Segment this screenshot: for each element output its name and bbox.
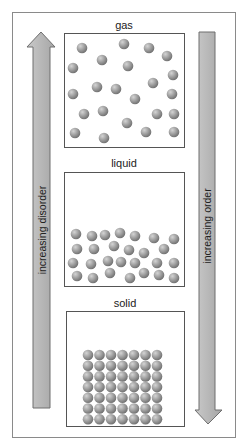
gas-particle — [92, 82, 103, 93]
solid-particle — [140, 403, 151, 414]
solid-particle — [152, 350, 163, 361]
gas-particle — [98, 106, 109, 117]
solid-particle — [140, 382, 151, 393]
liquid-particle — [72, 244, 83, 255]
liquid-label: liquid — [84, 157, 164, 169]
gas-particle — [99, 133, 110, 144]
liquid-particle — [152, 258, 163, 269]
liquid-particle — [130, 258, 141, 269]
solid-particle — [140, 393, 151, 404]
solid-particle — [106, 350, 117, 361]
solid-particle — [94, 393, 105, 404]
solid-particle — [117, 371, 128, 382]
liquid-particle — [139, 248, 150, 259]
gas-particle — [141, 127, 152, 138]
solid-particle — [140, 360, 151, 371]
solid-particle — [129, 382, 140, 393]
increasing-order-label: increasing order — [201, 188, 213, 263]
increasing-disorder-label: increasing disorder — [36, 186, 48, 275]
solid-particle — [83, 382, 94, 393]
liquid-particle — [105, 268, 116, 279]
liquid-particle — [154, 270, 165, 281]
liquid-particle — [109, 241, 120, 252]
liquid-particle — [169, 234, 180, 245]
liquid-particle — [169, 258, 180, 269]
liquid-particle — [149, 233, 160, 244]
liquid-container — [65, 173, 185, 287]
liquid-particle — [159, 244, 170, 255]
solid-particle — [140, 371, 151, 382]
states-of-matter-diagram: gas liquid solid increasing disorder inc… — [0, 0, 237, 444]
solid-particle — [94, 414, 105, 425]
liquid-particle — [103, 256, 114, 267]
solid-particle — [152, 393, 163, 404]
gas-particle — [168, 70, 179, 81]
liquid-particle — [139, 268, 150, 279]
solid-particle — [152, 360, 163, 371]
solid-particle — [83, 371, 94, 382]
solid-particle — [152, 371, 163, 382]
liquid-particle — [100, 230, 111, 241]
solid-particle — [106, 403, 117, 414]
solid-particle — [129, 393, 140, 404]
gas-particle — [79, 109, 90, 120]
gas-particle — [162, 51, 173, 62]
gas-label: gas — [84, 19, 164, 31]
solid-label: solid — [85, 297, 165, 309]
gas-container — [65, 34, 185, 148]
solid-particle — [140, 414, 151, 425]
gas-particle — [68, 63, 79, 74]
gas-particle — [97, 55, 108, 66]
liquid-particle — [68, 258, 79, 269]
liquid-particle — [125, 273, 136, 284]
liquid-particle — [169, 273, 180, 284]
solid-particle — [94, 371, 105, 382]
solid-particle — [117, 382, 128, 393]
gas-particle — [169, 127, 180, 138]
gas-particle — [68, 89, 79, 100]
solid-particle — [106, 414, 117, 425]
gas-particle — [169, 109, 180, 120]
liquid-particle — [86, 259, 97, 270]
liquid-particle — [130, 231, 141, 242]
gas-particle — [152, 109, 163, 120]
gas-particle — [123, 61, 134, 72]
gas-particle — [122, 118, 133, 129]
solid-particle — [129, 350, 140, 361]
gas-particle — [70, 128, 81, 139]
liquid-particle — [89, 244, 100, 255]
solid-particle — [83, 350, 94, 361]
liquid-particle — [87, 231, 98, 242]
liquid-particle — [88, 273, 99, 284]
solid-particle — [140, 350, 151, 361]
gas-particle — [130, 94, 141, 105]
solid-particle — [83, 360, 94, 371]
solid-particle — [83, 403, 94, 414]
solid-particle — [94, 382, 105, 393]
solid-particle — [129, 371, 140, 382]
solid-particle — [117, 360, 128, 371]
solid-particle — [106, 393, 117, 404]
solid-particle — [117, 350, 128, 361]
solid-particle — [106, 382, 117, 393]
solid-particle — [117, 414, 128, 425]
gas-particle — [167, 89, 178, 100]
liquid-particle — [115, 228, 126, 239]
solid-particle — [83, 393, 94, 404]
solid-particle — [117, 403, 128, 414]
solid-particle — [117, 393, 128, 404]
liquid-box — [65, 173, 185, 287]
solid-particle — [106, 360, 117, 371]
solid-particle — [129, 414, 140, 425]
gas-particle — [119, 39, 130, 50]
solid-particle — [83, 414, 94, 425]
solid-particle — [129, 360, 140, 371]
solid-particle — [152, 403, 163, 414]
gas-particle — [148, 78, 159, 89]
solid-particle — [94, 350, 105, 361]
solid-particle — [94, 403, 105, 414]
gas-particle — [111, 84, 122, 95]
solid-container — [67, 312, 185, 427]
liquid-particle — [116, 257, 127, 268]
solid-particle — [106, 371, 117, 382]
